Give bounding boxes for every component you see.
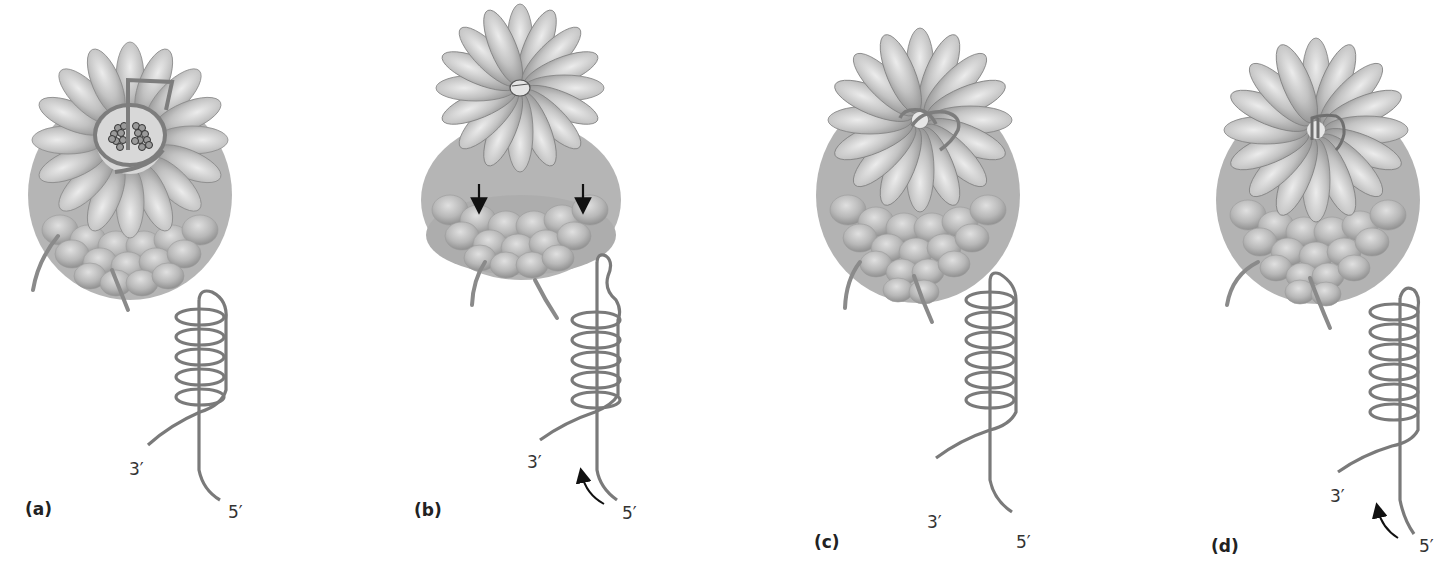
- rna-helix-a: [148, 291, 226, 500]
- three-prime-label: 3′: [927, 512, 942, 532]
- five-prime-label: 5′: [1419, 536, 1434, 556]
- panel-b: 3′ 5′ (b): [414, 4, 637, 523]
- panel-label-b: (b): [414, 500, 442, 520]
- panel-d: 3′ 5′ (d): [1211, 38, 1434, 556]
- protein-complex-d: [1216, 38, 1420, 328]
- three-prime-label: 3′: [1330, 486, 1345, 506]
- cap-ring-icon: [828, 28, 1012, 212]
- panel-label-d: (d): [1211, 536, 1239, 556]
- protein-complex-b: [421, 4, 621, 318]
- five-prime-label: 5′: [622, 503, 637, 523]
- protein-complex-a: [28, 42, 232, 310]
- three-prime-label: 3′: [527, 452, 542, 472]
- panel-label-a: (a): [25, 499, 52, 519]
- diagram-figure: 3′ 5′ (a): [0, 0, 1452, 567]
- rna-helix-b: [540, 255, 620, 500]
- motion-arrow-icon: [1378, 510, 1398, 538]
- five-prime-label: 5′: [228, 502, 243, 522]
- rna-helix-d: [1338, 288, 1419, 534]
- three-prime-label: 3′: [129, 459, 144, 479]
- panel-c: 3′ 5′ (c): [814, 28, 1031, 552]
- cap-ring-icon: [436, 4, 604, 172]
- rna-helix-c: [936, 273, 1016, 512]
- panel-label-c: (c): [814, 532, 840, 552]
- five-prime-label: 5′: [1016, 532, 1031, 552]
- panel-a: 3′ 5′ (a): [25, 42, 243, 522]
- cap-ring-icon: [1224, 38, 1408, 222]
